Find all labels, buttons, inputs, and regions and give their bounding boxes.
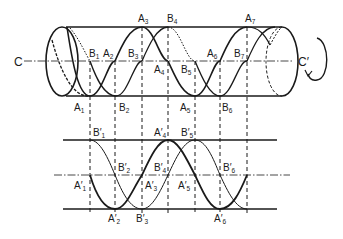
label-a2-prime: A′2 <box>108 213 121 225</box>
label-b5: B5 <box>181 64 192 76</box>
label-b2: B2 <box>119 102 130 114</box>
label-b1: B1 <box>89 48 100 60</box>
label-b2-prime: B′2 <box>118 162 131 174</box>
label-a2: A2 <box>103 48 114 60</box>
label-c: C <box>14 55 23 69</box>
label-a6-prime: A′6 <box>214 213 227 225</box>
label-b3: B3 <box>128 48 139 60</box>
label-a5: A5 <box>180 102 191 114</box>
labels: C C′ A3 B4 A7 B1 A2 B3 A4 B5 A6 B7 A1 B2… <box>14 13 310 225</box>
label-c-prime: C′ <box>298 55 310 69</box>
helix-cylinder-diagram: C C′ A3 B4 A7 B1 A2 B3 A4 B5 A6 B7 A1 B2… <box>0 0 343 239</box>
cylinder-right-end-front <box>282 27 298 96</box>
label-b6-prime: B′6 <box>223 162 236 174</box>
label-b7: B7 <box>234 48 245 60</box>
cylinder <box>46 27 298 96</box>
label-b4-prime: B′4 <box>154 162 167 174</box>
label-a5-prime: A′5 <box>178 180 191 192</box>
label-a1: A1 <box>74 102 85 114</box>
label-a3-prime: A′3 <box>145 180 158 192</box>
projection-graph <box>54 140 290 209</box>
label-a3: A3 <box>138 13 149 25</box>
label-b5-prime: B′5 <box>181 127 194 139</box>
label-b6: B6 <box>222 102 233 114</box>
label-b1-prime: B′1 <box>93 127 106 139</box>
label-a1-prime: A′1 <box>74 180 87 192</box>
label-a6: A6 <box>207 48 218 60</box>
label-a4-prime: A′4 <box>154 127 167 139</box>
label-a7: A7 <box>245 13 256 25</box>
label-b4: B4 <box>167 13 178 25</box>
label-a4: A4 <box>154 64 165 76</box>
label-b3-prime: B′3 <box>136 213 149 225</box>
